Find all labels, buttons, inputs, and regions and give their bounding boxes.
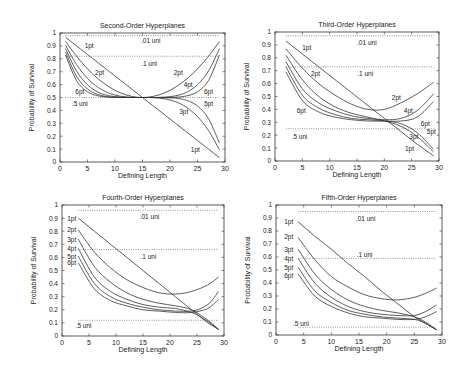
annotation-label: 3pt <box>284 246 293 254</box>
annotation-label: 5pt <box>204 100 213 108</box>
annotation-label: .01 uni <box>140 213 160 220</box>
y-tick-label: 0.3 <box>263 292 272 299</box>
y-tick-label: 0.4 <box>47 107 56 114</box>
annotation-label: 4pt <box>284 255 293 263</box>
annotation-label: 2pt <box>392 94 401 102</box>
y-tick-label: 1 <box>52 29 56 36</box>
y-tick-label: 0.1 <box>263 318 272 325</box>
x-tick-label: 10 <box>327 338 335 345</box>
x-tick-label: 0 <box>274 338 278 345</box>
x-tick-label: 30 <box>438 338 446 345</box>
y-axis-label: Probability of Survival <box>244 236 252 304</box>
x-tick-label: 20 <box>166 165 174 172</box>
chart-title: Third-Order Hyperplanes <box>318 21 396 29</box>
annotation-label: 4pt <box>404 107 413 115</box>
annotation-label: 2pt <box>95 69 104 77</box>
y-tick-label: 0.6 <box>49 254 58 261</box>
x-tick-label: 5 <box>300 164 304 171</box>
y-tick-label: 0.3 <box>262 119 271 126</box>
x-tick-label: 10 <box>112 339 120 346</box>
y-tick-label: 0.5 <box>47 94 56 101</box>
series-line-2pt <box>298 238 436 300</box>
figure: Second-Order Hyperplanes05101520253000.1… <box>0 0 465 370</box>
series-line-2pt <box>78 230 218 294</box>
annotation-label: .5 uni <box>72 100 88 107</box>
y-tick-label: 0.6 <box>47 81 56 88</box>
annotation-label: 6pt <box>67 259 76 267</box>
panel-second-order: Second-Order Hyperplanes05101520253000.1… <box>28 22 229 180</box>
y-tick-label: 0 <box>54 332 58 339</box>
y-tick-label: 0.2 <box>262 132 271 139</box>
x-tick-label: 10 <box>111 165 119 172</box>
y-tick-label: 0.5 <box>263 266 272 273</box>
x-tick-label: 25 <box>194 165 202 172</box>
y-tick-label: 0.8 <box>262 54 271 61</box>
series-line-5pt <box>298 267 436 329</box>
annotation-label: .01 uni <box>357 39 377 46</box>
y-axis-label: Probability of Survival <box>243 62 251 130</box>
y-tick-label: 0.1 <box>49 319 58 326</box>
annotation-label: 2pt <box>174 69 183 77</box>
series-line-2pt <box>66 41 220 97</box>
series-line-3pt <box>298 249 436 330</box>
chart-title: Second-Order Hyperplanes <box>100 22 186 30</box>
annotation-label: 3pt <box>409 133 418 141</box>
x-tick-label: 20 <box>383 338 391 345</box>
panel-fifth-order: Fifth-Order Hyperplanes05101520253000.10… <box>244 194 446 353</box>
y-tick-label: 0.8 <box>49 228 58 235</box>
x-tick-label: 15 <box>353 164 361 171</box>
y-tick-label: 1 <box>267 28 271 35</box>
y-tick-label: 0.6 <box>262 80 271 87</box>
annotation-label: .1 uni <box>141 60 157 67</box>
annotation-label: 2pt <box>67 226 76 234</box>
y-tick-label: 0.9 <box>262 41 271 48</box>
annotation-label: 1pt <box>284 218 293 226</box>
annotation-label: .5 uni <box>292 133 308 140</box>
x-tick-label: 0 <box>60 339 64 346</box>
x-tick-label: 15 <box>355 338 363 345</box>
annotation-label: .1 uni <box>357 70 373 77</box>
y-tick-label: 0.7 <box>263 240 272 247</box>
annotation-label: .01 uni <box>141 37 161 44</box>
y-tick-label: 0.8 <box>47 55 56 62</box>
x-tick-label: 30 <box>435 164 443 171</box>
x-tick-label: 10 <box>326 164 334 171</box>
x-tick-label: 25 <box>193 339 201 346</box>
y-tick-label: 0.3 <box>47 120 56 127</box>
y-tick-label: 0.5 <box>262 93 271 100</box>
annotation-label: .5 uni <box>293 320 309 327</box>
annotation-label: 4pt <box>67 245 76 253</box>
annotation-label: .01 uni <box>356 215 376 222</box>
x-tick-label: 20 <box>380 164 388 171</box>
y-tick-label: 0.3 <box>49 293 58 300</box>
annotation-label: 6pt <box>75 88 84 96</box>
y-axis-label: Probability of Survival <box>30 236 38 304</box>
series-line-5pt <box>78 256 218 329</box>
y-tick-label: 0.7 <box>47 68 56 75</box>
y-tick-label: 1 <box>54 201 58 208</box>
y-tick-label: 0 <box>52 158 56 165</box>
x-tick-label: 5 <box>302 338 306 345</box>
annotation-label: 2pt <box>311 70 320 78</box>
y-tick-label: 0.9 <box>49 215 58 222</box>
annotation-label: .1 uni <box>140 253 156 260</box>
x-axis-label: Defining Length <box>334 345 383 353</box>
annotation-label: 3pt <box>179 108 188 116</box>
y-tick-label: 0.6 <box>263 253 272 260</box>
y-tick-label: 1 <box>268 201 272 208</box>
figure-canvas: Second-Order Hyperplanes05101520253000.1… <box>0 0 465 370</box>
y-tick-label: 0.2 <box>263 305 272 312</box>
annotation-label: 1pt <box>191 146 200 154</box>
y-tick-label: 0.9 <box>47 42 56 49</box>
annotation-label: 4pt <box>184 81 193 89</box>
y-tick-label: 0.4 <box>49 280 58 287</box>
x-tick-label: 15 <box>139 165 147 172</box>
y-tick-label: 0.4 <box>263 279 272 286</box>
x-tick-label: 30 <box>221 165 229 172</box>
x-tick-label: 0 <box>273 164 277 171</box>
x-tick-label: 15 <box>139 339 147 346</box>
y-tick-label: 0.5 <box>49 267 58 274</box>
y-tick-label: 0.9 <box>263 214 272 221</box>
y-tick-label: 0 <box>267 157 271 164</box>
series-line-1pt <box>298 222 436 330</box>
